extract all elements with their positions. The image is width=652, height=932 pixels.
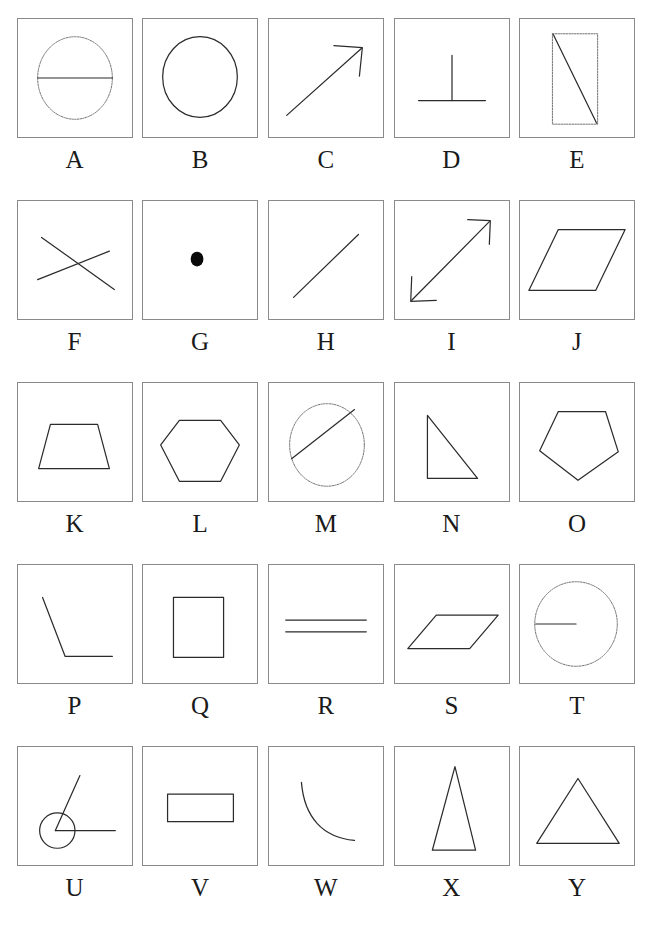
glyph-two-parallel-lines <box>269 565 383 683</box>
shape-label: N <box>442 511 461 536</box>
shape-cell-q[interactable]: Q <box>138 564 264 746</box>
shape-panel-k <box>17 382 133 502</box>
shape-label: Y <box>568 875 587 900</box>
shape-cell-t[interactable]: T <box>514 564 640 746</box>
shape-label: W <box>314 875 338 900</box>
shape-label: X <box>442 875 461 900</box>
glyph-diagonal-line <box>269 201 383 319</box>
glyph-circle <box>143 19 257 137</box>
shape-panel-j <box>519 200 635 320</box>
shape-panel-f <box>17 200 133 320</box>
shape-label: E <box>569 147 585 172</box>
shape-cell-a[interactable]: A <box>12 18 138 200</box>
glyph-trapezoid <box>18 383 132 501</box>
shape-panel-y <box>519 746 635 866</box>
glyph-circle-with-chord <box>269 383 383 501</box>
glyph-rectangle-with-diagonal <box>520 19 634 137</box>
glyph-hexagon <box>143 383 257 501</box>
shape-label: I <box>447 329 456 354</box>
shape-label: O <box>568 511 587 536</box>
shape-cell-u[interactable]: U <box>12 746 138 928</box>
glyph-rectangle-horizontal <box>143 747 257 865</box>
shape-panel-s <box>394 564 510 684</box>
shape-label: K <box>66 511 85 536</box>
shape-label: U <box>66 875 85 900</box>
glyph-parallelogram-flat <box>395 565 509 683</box>
shape-cell-j[interactable]: J <box>514 200 640 382</box>
shape-label: F <box>68 329 82 354</box>
glyph-two-crossing-lines <box>18 201 132 319</box>
shape-label: C <box>317 147 334 172</box>
glyph-concave-curve <box>269 747 383 865</box>
shape-panel-q <box>142 564 258 684</box>
shape-panel-p <box>17 564 133 684</box>
shape-panel-l <box>142 382 258 502</box>
shape-label: G <box>191 329 210 354</box>
shape-label: J <box>572 329 582 354</box>
shape-panel-x <box>394 746 510 866</box>
shape-panel-u <box>17 746 133 866</box>
shape-cell-o[interactable]: O <box>514 382 640 564</box>
shape-cell-r[interactable]: R <box>263 564 389 746</box>
shape-panel-g <box>142 200 258 320</box>
glyph-rectangle-vertical <box>143 565 257 683</box>
shape-label: Q <box>191 693 210 718</box>
shape-panel-r <box>268 564 384 684</box>
shape-label: R <box>317 693 334 718</box>
shape-panel-m <box>268 382 384 502</box>
shape-cell-x[interactable]: X <box>389 746 515 928</box>
glyph-triangle-equilateral <box>520 747 634 865</box>
shape-panel-n <box>394 382 510 502</box>
glyph-filled-dot <box>143 201 257 319</box>
shape-label: B <box>192 147 209 172</box>
shape-cell-s[interactable]: S <box>389 564 515 746</box>
glyph-perpendicular-symbol <box>395 19 509 137</box>
shape-panel-t <box>519 564 635 684</box>
shape-cell-v[interactable]: V <box>138 746 264 928</box>
shape-panel-o <box>519 382 635 502</box>
shape-cell-h[interactable]: H <box>263 200 389 382</box>
glyph-triangle-narrow <box>395 747 509 865</box>
shape-cell-w[interactable]: W <box>263 746 389 928</box>
glyph-arrow-diagonal-up-right <box>269 19 383 137</box>
shape-cell-m[interactable]: M <box>263 382 389 564</box>
shape-label: A <box>66 147 85 172</box>
shape-panel-v <box>142 746 258 866</box>
shape-label: S <box>444 693 458 718</box>
glyph-circle-with-horizontal-diameter <box>18 19 132 137</box>
shape-cell-d[interactable]: D <box>389 18 515 200</box>
shape-cell-i[interactable]: I <box>389 200 515 382</box>
shape-cell-p[interactable]: P <box>12 564 138 746</box>
shape-label: P <box>68 693 82 718</box>
shape-label: L <box>193 511 209 536</box>
glyph-angle-obtuse <box>18 565 132 683</box>
shape-cell-y[interactable]: Y <box>514 746 640 928</box>
shape-grid: A B C <box>0 0 652 932</box>
shape-panel-w <box>268 746 384 866</box>
shape-label: V <box>191 875 210 900</box>
shape-panel-a <box>17 18 133 138</box>
shape-panel-b <box>142 18 258 138</box>
shape-label: H <box>317 329 336 354</box>
shape-panel-d <box>394 18 510 138</box>
shape-cell-b[interactable]: B <box>138 18 264 200</box>
shape-panel-h <box>268 200 384 320</box>
shape-chart-sheet: A B C <box>0 0 652 932</box>
shape-cell-c[interactable]: C <box>263 18 389 200</box>
shape-panel-i <box>394 200 510 320</box>
glyph-pentagon-inverted <box>520 383 634 501</box>
glyph-double-headed-arrow-diagonal <box>395 201 509 319</box>
shape-label: M <box>315 511 338 536</box>
glyph-parallelogram-tall <box>520 201 634 319</box>
shape-cell-g[interactable]: G <box>138 200 264 382</box>
shape-cell-n[interactable]: N <box>389 382 515 564</box>
shape-cell-e[interactable]: E <box>514 18 640 200</box>
shape-cell-f[interactable]: F <box>12 200 138 382</box>
shape-label: T <box>569 693 585 718</box>
shape-panel-c <box>268 18 384 138</box>
glyph-right-triangle <box>395 383 509 501</box>
shape-cell-k[interactable]: K <box>12 382 138 564</box>
glyph-angle-with-arc-circle <box>18 747 132 865</box>
shape-cell-l[interactable]: L <box>138 382 264 564</box>
shape-panel-e <box>519 18 635 138</box>
